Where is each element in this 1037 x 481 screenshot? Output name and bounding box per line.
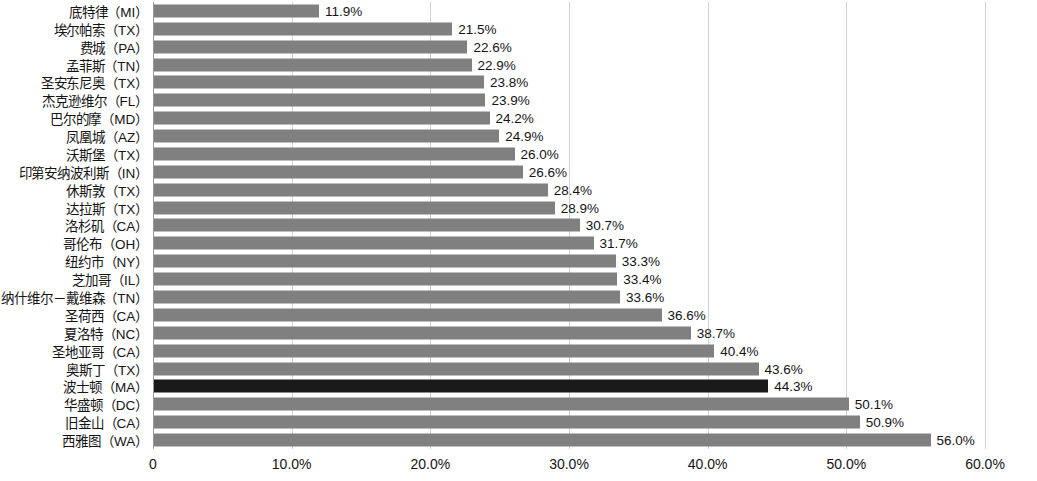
bar-value-label: 38.7% bbox=[691, 325, 735, 340]
bar-row: 底特律（MI）11.9% bbox=[0, 2, 1037, 20]
x-axis-tick-label: 30.0% bbox=[549, 456, 589, 472]
bar-row: 洛杉矶（CA）30.7% bbox=[0, 217, 1037, 235]
bar-row: 夏洛特（NC）38.7% bbox=[0, 324, 1037, 342]
bar-row: 埃尔帕索（TX）21.5% bbox=[0, 20, 1037, 38]
bar-value-label: 36.6% bbox=[662, 307, 706, 322]
bar-value-label: 43.6% bbox=[759, 361, 803, 376]
bar-row: 纳什维尔－戴维森（TN）33.6% bbox=[0, 288, 1037, 306]
bar-value-label: 31.7% bbox=[594, 236, 638, 251]
bar bbox=[154, 380, 768, 393]
bar bbox=[154, 398, 849, 411]
bar-row: 旧金山（CA）50.9% bbox=[0, 413, 1037, 431]
bar-row: 哥伦布（OH）31.7% bbox=[0, 234, 1037, 252]
bar-value-label: 30.7% bbox=[580, 218, 624, 233]
bar bbox=[154, 22, 452, 35]
bar-value-label: 22.9% bbox=[472, 57, 516, 72]
bar-value-label: 28.9% bbox=[555, 200, 599, 215]
bar bbox=[154, 58, 472, 71]
bar-value-label: 24.2% bbox=[490, 111, 534, 126]
bar bbox=[154, 291, 620, 304]
bar-row: 杰克逊维尔（FL）23.9% bbox=[0, 91, 1037, 109]
bar-row: 波士顿（MA）44.3% bbox=[0, 377, 1037, 395]
bar-chart: 底特律（MI）11.9%埃尔帕索（TX）21.5%费城（PA）22.6%孟菲斯（… bbox=[0, 0, 1037, 481]
bar-value-label: 33.6% bbox=[620, 290, 664, 305]
bar-value-label: 50.9% bbox=[860, 415, 904, 430]
bar bbox=[154, 362, 759, 375]
bar-value-label: 33.4% bbox=[617, 272, 661, 287]
bar bbox=[154, 112, 490, 125]
bar bbox=[154, 4, 319, 17]
bar-row: 圣地亚哥（CA）40.4% bbox=[0, 342, 1037, 360]
bar-value-label: 26.6% bbox=[523, 164, 567, 179]
bar bbox=[154, 344, 714, 357]
bar bbox=[154, 434, 931, 447]
bar-value-label: 26.0% bbox=[515, 146, 559, 161]
bar-value-label: 24.9% bbox=[499, 129, 543, 144]
bar-row: 纽约市（NY）33.3% bbox=[0, 252, 1037, 270]
x-axis-tick-label: 40.0% bbox=[688, 456, 728, 472]
x-axis: 010.0%20.0%30.0%40.0%50.0%60.0% bbox=[0, 452, 1037, 481]
bar-row: 孟菲斯（TN）22.9% bbox=[0, 56, 1037, 74]
bar-row: 达拉斯（TX）28.9% bbox=[0, 199, 1037, 217]
bar-rows: 底特律（MI）11.9%埃尔帕索（TX）21.5%费城（PA）22.6%孟菲斯（… bbox=[0, 2, 1037, 449]
bar-value-label: 33.3% bbox=[616, 254, 660, 269]
x-axis-tick-label: 10.0% bbox=[272, 456, 312, 472]
bar-value-label: 23.8% bbox=[484, 75, 528, 90]
bar bbox=[154, 94, 485, 107]
x-axis-tick-label: 50.0% bbox=[826, 456, 866, 472]
bar-row: 休斯敦（TX）28.4% bbox=[0, 181, 1037, 199]
bar-value-label: 28.4% bbox=[548, 182, 592, 197]
bar bbox=[154, 183, 548, 196]
bar bbox=[154, 255, 616, 268]
bar bbox=[154, 76, 484, 89]
bar bbox=[154, 273, 617, 286]
x-axis-tick-label: 60.0% bbox=[965, 456, 1005, 472]
bar bbox=[154, 147, 515, 160]
bar bbox=[154, 237, 594, 250]
x-axis-tick-label: 0 bbox=[149, 456, 157, 472]
bar bbox=[154, 308, 662, 321]
bar-row: 凤凰城（AZ）24.9% bbox=[0, 127, 1037, 145]
bar-value-label: 23.9% bbox=[485, 93, 529, 108]
category-label: 西雅图（WA） bbox=[0, 430, 148, 450]
bar-row: 奥斯丁（TX）43.6% bbox=[0, 360, 1037, 378]
bar-row: 芝加哥（IL）33.4% bbox=[0, 270, 1037, 288]
bar bbox=[154, 40, 467, 53]
bar-value-label: 11.9% bbox=[319, 3, 362, 18]
bar-row: 西雅图（WA）56.0% bbox=[0, 431, 1037, 449]
bar-row: 圣荷西（CA）36.6% bbox=[0, 306, 1037, 324]
bar-row: 华盛顿（DC）50.1% bbox=[0, 395, 1037, 413]
bar-row: 圣安东尼奥（TX）23.8% bbox=[0, 74, 1037, 92]
bar-value-label: 50.1% bbox=[849, 397, 893, 412]
x-axis-tick-label: 20.0% bbox=[410, 456, 450, 472]
bar-value-label: 21.5% bbox=[452, 21, 496, 36]
bar bbox=[154, 416, 860, 429]
bar bbox=[154, 326, 691, 339]
bar-row: 巴尔的摩（MD）24.2% bbox=[0, 109, 1037, 127]
bar-value-label: 22.6% bbox=[467, 39, 511, 54]
bar bbox=[154, 219, 580, 232]
bar-value-label: 56.0% bbox=[931, 433, 975, 448]
bar-row: 费城（PA）22.6% bbox=[0, 38, 1037, 56]
bar-value-label: 44.3% bbox=[768, 379, 812, 394]
bar bbox=[154, 130, 499, 143]
bar bbox=[154, 165, 523, 178]
bar-value-label: 40.4% bbox=[714, 343, 758, 358]
bar-row: 沃斯堡（TX）26.0% bbox=[0, 145, 1037, 163]
bar bbox=[154, 201, 555, 214]
bar-row: 印第安纳波利斯（IN）26.6% bbox=[0, 163, 1037, 181]
